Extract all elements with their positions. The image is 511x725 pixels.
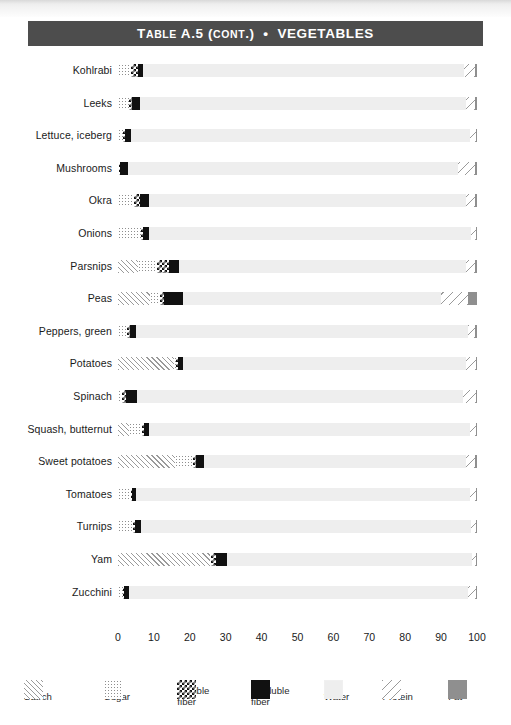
bar-segment-protein	[466, 97, 475, 110]
table-row: Zucchini	[0, 577, 511, 607]
row-label: Onions	[0, 218, 112, 248]
bar-segment-sugar	[175, 455, 192, 468]
bar-segment-water	[183, 357, 467, 370]
stacked-bar	[118, 586, 477, 599]
row-label: Zucchini	[0, 577, 112, 607]
table-title-bar: TABLE A.5 (CONT.) • VEGETABLES	[28, 21, 483, 46]
stacked-bar	[118, 520, 477, 533]
bar-segment-protein	[466, 194, 475, 207]
bar-segment-starch	[118, 292, 150, 305]
table-row: Leeks	[0, 88, 511, 118]
chart-legend: StarchSugarSoluble fiberInsoluble fiberW…	[0, 680, 511, 720]
stacked-bar	[118, 64, 477, 77]
bar-segment-protein	[466, 455, 475, 468]
stacked-bar	[118, 455, 477, 468]
table-row: Kohlrabi	[0, 55, 511, 85]
bar-segment-fat	[476, 227, 477, 240]
x-axis: 0102030405060708090100	[0, 631, 511, 649]
bar-segment-starch	[118, 423, 129, 436]
table-row: Squash, butternut	[0, 414, 511, 444]
bar-segment-fat	[476, 586, 477, 599]
bar-segment-insoluble	[132, 97, 140, 110]
bar-segment-starch	[118, 260, 138, 273]
bar-segment-starch	[118, 553, 210, 566]
row-label: Lettuce, iceberg	[0, 120, 112, 150]
legend-swatch-water-icon	[324, 680, 343, 699]
bar-segment-insoluble	[196, 455, 204, 468]
x-axis-tick-label: 50	[292, 631, 304, 643]
bar-segment-fat	[476, 488, 477, 501]
bar-segment-water	[149, 227, 470, 240]
x-axis-tick-label: 100	[468, 631, 486, 643]
table-row: Tomatoes	[0, 479, 511, 509]
table-row: Sweet potatoes	[0, 446, 511, 476]
bar-segment-insoluble	[169, 260, 179, 273]
bar-segment-fat	[476, 553, 477, 566]
page-edge-shading	[0, 0, 511, 17]
bar-segment-starch	[118, 455, 175, 468]
table-row: Lettuce, iceberg	[0, 120, 511, 150]
bar-segment-soluble	[157, 260, 169, 273]
bar-segment-water	[149, 194, 467, 207]
bar-segment-fat	[475, 97, 477, 110]
bar-segment-protein	[468, 325, 475, 338]
x-axis-tick-label: 20	[184, 631, 196, 643]
bar-segment-protein	[468, 586, 476, 599]
stacked-bar-chart: KohlrabiLeeksLettuce, icebergMushroomsOk…	[0, 55, 511, 630]
bar-segment-fat	[476, 357, 477, 370]
legend-item-protein: Protein	[382, 680, 412, 714]
bar-segment-protein	[466, 260, 475, 273]
bar-segment-water	[129, 586, 468, 599]
table-row: Spinach	[0, 381, 511, 411]
stacked-bar	[118, 357, 477, 370]
stacked-bar	[118, 162, 477, 175]
row-label: Sweet potatoes	[0, 446, 112, 476]
bar-segment-water	[183, 292, 441, 305]
x-axis-tick-label: 80	[399, 631, 411, 643]
bar-segment-water	[136, 325, 468, 338]
row-label: Turnips	[0, 511, 112, 541]
bar-segment-insoluble	[216, 553, 228, 566]
bar-segment-fat	[475, 325, 477, 338]
legend-item-sugar: Sugar	[104, 680, 130, 714]
legend-item-water: Water	[324, 680, 349, 714]
bar-segment-water	[140, 97, 467, 110]
x-axis-tick-label: 30	[220, 631, 232, 643]
bar-segment-water	[227, 553, 471, 566]
stacked-bar	[118, 423, 477, 436]
stacked-bar	[118, 390, 477, 403]
table-row: Onions	[0, 218, 511, 248]
bar-segment-fat	[475, 455, 477, 468]
bar-segment-insoluble	[140, 194, 149, 207]
bar-segment-water	[149, 423, 470, 436]
row-label: Peppers, green	[0, 316, 112, 346]
legend-swatch-fat-icon	[448, 680, 467, 699]
table-row: Mushrooms	[0, 153, 511, 183]
bar-segment-protein	[463, 390, 475, 403]
bar-segment-water	[143, 64, 464, 77]
row-label: Peas	[0, 283, 112, 313]
bar-segment-fat	[476, 390, 477, 403]
table-row: Potatoes	[0, 348, 511, 378]
row-label: Spinach	[0, 381, 112, 411]
bar-segment-sugar	[118, 325, 127, 338]
stacked-bar	[118, 488, 477, 501]
legend-swatch-sugar-icon	[104, 680, 123, 699]
stacked-bar	[118, 325, 477, 338]
stacked-bar	[118, 260, 477, 273]
row-label: Leeks	[0, 88, 112, 118]
row-label: Yam	[0, 544, 112, 574]
row-label: Tomatoes	[0, 479, 112, 509]
bar-segment-sugar	[118, 97, 129, 110]
bar-segment-starch	[118, 357, 174, 370]
stacked-bar	[118, 97, 477, 110]
bar-segment-sugar	[150, 292, 159, 305]
bar-segment-sugar	[129, 423, 143, 436]
table-row: Peas	[0, 283, 511, 313]
table-row: Peppers, green	[0, 316, 511, 346]
row-label: Kohlrabi	[0, 55, 112, 85]
x-axis-tick-label: 90	[435, 631, 447, 643]
legend-swatch-protein-icon	[382, 680, 401, 699]
bar-segment-fat	[475, 260, 477, 273]
row-label: Squash, butternut	[0, 414, 112, 444]
